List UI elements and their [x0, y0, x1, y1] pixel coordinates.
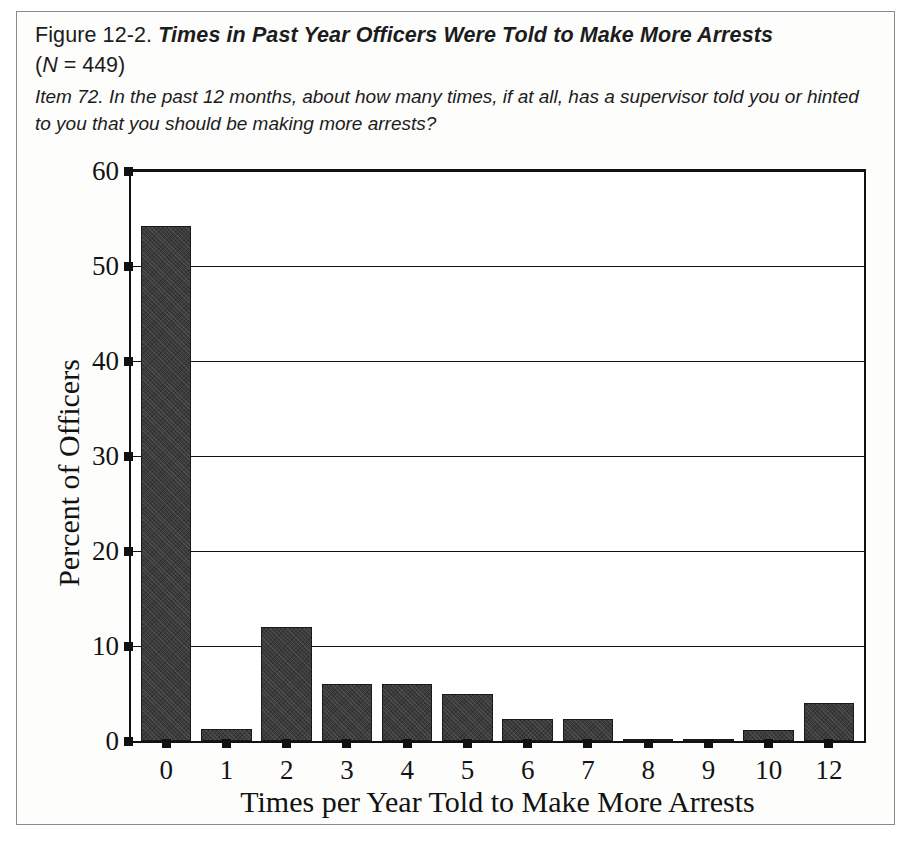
bar[interactable]	[141, 226, 192, 741]
x-axis-tick	[583, 739, 592, 748]
x-axis-label: 10	[755, 755, 782, 786]
x-axis-title: Times per Year Told to Make More Arrests	[129, 785, 866, 819]
bar-slot: 0	[136, 171, 196, 741]
plot-area: 60 50 40 30 20	[129, 169, 866, 743]
x-axis-label: 6	[521, 755, 535, 786]
bar-slot: 9	[678, 171, 738, 741]
bar-slot: 4	[377, 171, 437, 741]
x-axis-label: 9	[702, 755, 716, 786]
figure-container: Figure 12-2. Times in Past Year Officers…	[16, 11, 895, 825]
bar[interactable]	[442, 694, 493, 742]
y-axis-title: Percent of Officers	[52, 273, 86, 673]
x-axis-label: 2	[280, 755, 294, 786]
x-axis-label: 7	[581, 755, 595, 786]
bar[interactable]	[322, 684, 373, 741]
bar[interactable]	[502, 719, 553, 741]
x-axis-tick	[282, 739, 291, 748]
x-axis-tick	[162, 739, 171, 748]
bar-slot: 5	[437, 171, 497, 741]
bar-slot: 12	[799, 171, 859, 741]
x-axis-tick	[342, 739, 351, 748]
x-axis-tick	[523, 739, 532, 748]
x-axis-tick	[403, 739, 412, 748]
y-axis-label-10: 10	[92, 630, 119, 661]
bar-slot: 1	[196, 171, 256, 741]
x-axis-label: 1	[220, 755, 234, 786]
x-axis-tick	[644, 739, 653, 748]
y-axis-label-0: 0	[106, 726, 120, 757]
bar[interactable]	[382, 684, 433, 741]
bar-slot: 6	[498, 171, 558, 741]
y-axis-label-30: 30	[92, 441, 119, 472]
bar[interactable]	[563, 719, 614, 741]
y-axis-label-50: 50	[92, 251, 119, 282]
bar[interactable]	[261, 627, 312, 741]
bar-series: 01234567891012	[131, 171, 864, 741]
x-axis-tick	[704, 739, 713, 748]
x-axis-label: 3	[340, 755, 354, 786]
x-axis-tick	[824, 739, 833, 748]
bar-slot: 7	[558, 171, 618, 741]
x-axis-tick	[463, 739, 472, 748]
x-axis-label: 12	[815, 755, 842, 786]
x-axis-tick	[764, 739, 773, 748]
x-axis-label: 5	[461, 755, 475, 786]
x-axis-label: 0	[159, 755, 173, 786]
bar-slot: 10	[739, 171, 799, 741]
y-axis-label-60: 60	[92, 156, 119, 187]
x-axis-label: 8	[641, 755, 655, 786]
bar-slot: 8	[618, 171, 678, 741]
x-axis-label: 4	[400, 755, 414, 786]
y-axis-label-20: 20	[92, 536, 119, 567]
bar[interactable]	[804, 703, 855, 741]
y-axis-label-40: 40	[92, 345, 119, 376]
x-axis-tick	[222, 739, 231, 748]
bar-slot: 3	[317, 171, 377, 741]
bar-chart: Percent of Officers 60 50 40 30	[17, 12, 896, 826]
bar-slot: 2	[257, 171, 317, 741]
